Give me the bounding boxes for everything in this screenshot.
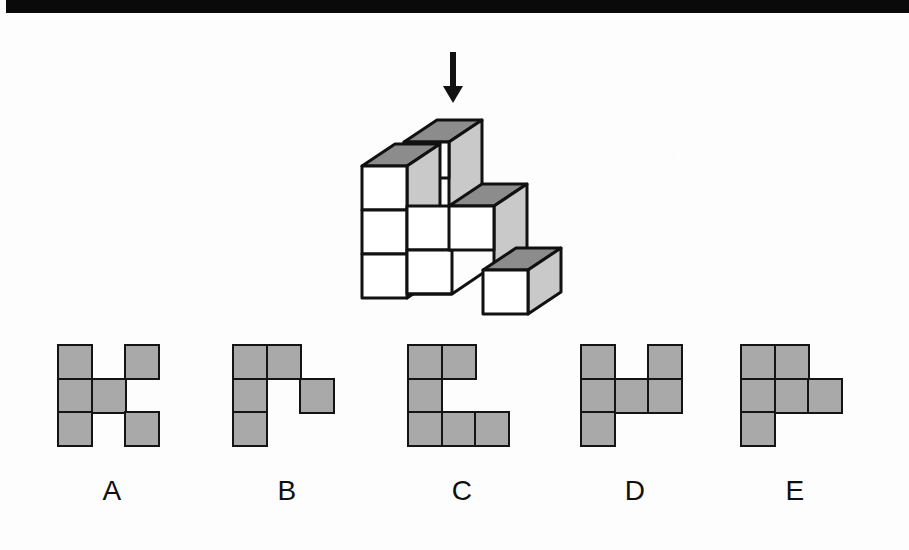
shape-cell [57, 344, 93, 380]
option-b-shape [232, 344, 342, 454]
down-arrow-svg [441, 52, 465, 104]
down-arrow-icon [441, 52, 465, 104]
shape-cell [774, 344, 810, 380]
cube-stack-svg [358, 108, 568, 323]
shape-cell [614, 378, 650, 414]
shape-cell [57, 378, 93, 414]
shape-cell [441, 411, 477, 447]
shape-cell [774, 378, 810, 414]
option-a-shape [57, 344, 167, 454]
option-d-shape [580, 344, 690, 454]
option-e[interactable]: E [740, 335, 900, 530]
option-e-shape [740, 344, 850, 454]
shape-cell [232, 344, 268, 380]
cube-middle-front-face-top [407, 206, 452, 250]
shape-cell [124, 344, 160, 380]
shape-cell [580, 344, 616, 380]
answer-options-row: ABCDE [0, 335, 909, 530]
shape-cell [91, 378, 127, 414]
cube-left-front-face-bottom [362, 254, 407, 298]
option-c[interactable]: C [407, 335, 567, 530]
shape-cell [232, 411, 268, 447]
shape-cell [232, 378, 268, 414]
shape-cell [124, 411, 160, 447]
cube-left-front-face-top [362, 166, 407, 210]
shape-cell [57, 411, 93, 447]
shape-cell [740, 411, 776, 447]
option-d-label: D [580, 475, 690, 507]
option-c-shape [407, 344, 517, 454]
shape-cell [441, 344, 477, 380]
shape-cell [266, 344, 302, 380]
shape-cell [407, 344, 443, 380]
top-black-bar [6, 0, 909, 13]
cube-left-front-face-middle [362, 210, 407, 254]
shape-cell [407, 411, 443, 447]
option-c-label: C [407, 475, 517, 507]
shape-cell [474, 411, 510, 447]
shape-cell [807, 378, 843, 414]
shape-cell [580, 411, 616, 447]
option-a[interactable]: A [57, 335, 217, 530]
shape-cell [740, 344, 776, 380]
option-b[interactable]: B [232, 335, 392, 530]
shape-cell [647, 378, 683, 414]
floor-edge-middle-right [452, 273, 483, 294]
shape-cell [580, 378, 616, 414]
option-a-label: A [57, 475, 167, 507]
option-d[interactable]: D [580, 335, 740, 530]
shape-cell [299, 378, 335, 414]
isometric-cube-stack [358, 108, 568, 323]
shape-cell [407, 378, 443, 414]
cube-middle-front-face-bottom [407, 250, 452, 294]
option-b-label: B [232, 475, 342, 507]
option-e-label: E [740, 475, 850, 507]
cube-right-mid-front-face [449, 206, 494, 250]
cube-front-right-front-face [483, 270, 528, 314]
shape-cell [740, 378, 776, 414]
shape-cell [647, 344, 683, 380]
